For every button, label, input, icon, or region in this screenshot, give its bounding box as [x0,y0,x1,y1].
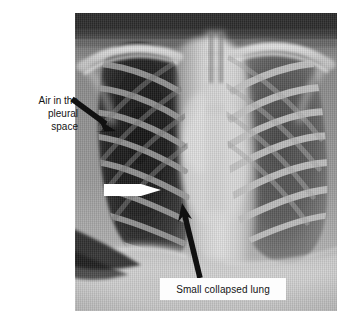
figure-annotated-chest-xray: Air in the pleural space Small collapsed… [0,0,348,324]
collapsed-lung-callout: Small collapsed lung [160,278,286,300]
chest-xray-image [75,13,337,311]
air-pleural-label-line3: space [4,120,78,133]
air-pleural-label: Air in the pleural space [4,94,78,133]
air-pleural-label-line1: Air in the [4,94,78,107]
xray-render [75,13,337,311]
collapsed-lung-label: Small collapsed lung [176,284,270,295]
air-pleural-label-line2: pleural [4,107,78,120]
